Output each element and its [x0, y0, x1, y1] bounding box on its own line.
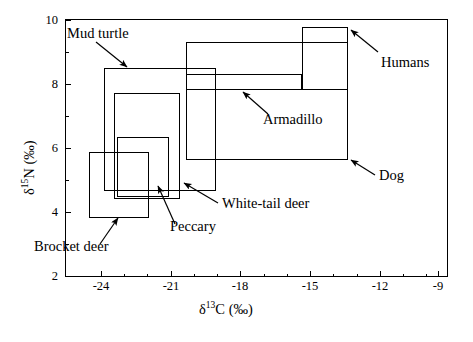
label-brocket-deer: Brocket deer [34, 239, 108, 254]
x-tick-major-2 [240, 271, 241, 277]
label-mud-turtle: Mud turtle [67, 26, 129, 41]
y-tick-minor-6 [65, 116, 69, 117]
x-tick-minor-3 [217, 274, 218, 278]
x-tick-label-3: -15 [302, 280, 319, 293]
y-axis-title-superscript: 15 [20, 179, 30, 189]
x-axis-title-rest: C (‰) [215, 301, 252, 317]
x-tick-label-5: -9 [433, 280, 443, 293]
y-tick-major-1 [65, 212, 71, 213]
label-armadillo: Armadillo [263, 112, 323, 127]
y-tick-label-1: 4 [36, 206, 58, 219]
x-tick-minor-9 [426, 274, 427, 278]
x-tick-major-5 [438, 271, 439, 277]
y-tick-major-2 [65, 148, 71, 149]
x-tick-minor-2 [194, 274, 195, 278]
label-humans: Humans [381, 55, 429, 70]
x-tick-label-0: -24 [93, 280, 110, 293]
y-tick-label-2: 6 [36, 142, 58, 155]
x-tick-major-0 [101, 271, 102, 277]
y-axis-title-rest: N (‰) [21, 140, 37, 178]
x-tick-minor-8 [403, 274, 404, 278]
y-tick-major-0 [65, 276, 71, 277]
x-tick-minor-7 [357, 274, 358, 278]
figure-canvas: -24 -21 -18 -15 -12 -9 10 8 6 4 2 [0, 0, 473, 342]
x-tick-minor-0 [124, 274, 125, 278]
x-tick-label-4: -12 [372, 280, 389, 293]
x-tick-major-4 [380, 271, 381, 277]
y-axis-title-delta: δ [21, 188, 37, 195]
y-tick-label-0: 2 [36, 270, 58, 283]
x-tick-minor-1 [147, 274, 148, 278]
label-peccary: Peccary [170, 219, 216, 234]
data-box-humans [302, 27, 348, 90]
label-white-tail-deer: White-tail deer [222, 196, 309, 211]
y-tick-minor-5 [65, 180, 69, 181]
x-tick-major-1 [171, 271, 172, 277]
x-tick-minor-5 [287, 274, 288, 278]
x-tick-minor-4 [264, 274, 265, 278]
y-axis-title: δ15N (‰) [20, 140, 38, 195]
label-dog: Dog [379, 168, 404, 183]
data-box-brocket-deer [89, 152, 149, 218]
x-axis-title-superscript: 13 [206, 300, 216, 310]
y-tick-major-4 [65, 20, 71, 21]
x-tick-major-3 [310, 271, 311, 277]
y-tick-major-3 [65, 84, 71, 85]
x-axis-title-delta: δ [199, 301, 206, 317]
x-tick-label-2: -18 [232, 280, 249, 293]
y-tick-label-4: 10 [36, 14, 58, 27]
x-tick-label-1: -21 [163, 280, 180, 293]
x-axis-title: δ13C (‰) [199, 300, 253, 318]
y-tick-label-3: 8 [36, 78, 58, 91]
x-tick-minor-6 [333, 274, 334, 278]
y-tick-minor-7 [65, 52, 69, 53]
